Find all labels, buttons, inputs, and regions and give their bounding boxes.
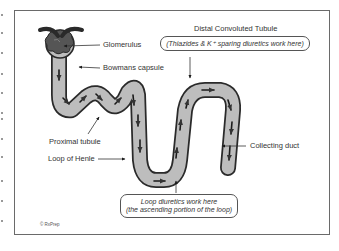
note-loop-diuretics: Loop diuretics work here (the ascending …: [120, 194, 238, 218]
label-collecting-duct: Collecting duct: [250, 142, 299, 150]
label-bowmans-capsule: Bowmans capsule: [103, 64, 164, 72]
label-glomerulus: Glomerulus: [103, 41, 141, 49]
glomerulus-shape: [40, 29, 82, 54]
label-proximal-tubule: Proximal tubule: [49, 138, 101, 146]
label-distal-convoluted-tubule: Distal Convoluted Tubule: [194, 25, 277, 33]
note-distal-diuretics: (Thiazides & K⁺ sparing diuretics work h…: [160, 36, 310, 51]
label-loop-of-henle: Loop of Henle: [48, 155, 95, 163]
note-loop-line1: Loop diuretics work here: [121, 198, 237, 206]
copyright: © RxPrep: [40, 222, 60, 227]
diagram-canvas: Glomerulus Bowmans capsule Proximal tubu…: [0, 0, 339, 251]
bowmans-capsule-pointer: [79, 67, 100, 68]
proximal-tubule-pointer: [88, 117, 99, 134]
note-distal-text: (Thiazides & K⁺ sparing diuretics work h…: [166, 40, 303, 47]
note-loop-line2: (the ascending portion of the loop): [121, 206, 237, 214]
